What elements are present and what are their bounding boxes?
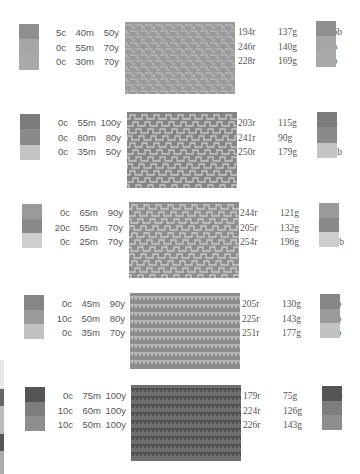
cmyk-m-value: 60m [73,404,101,419]
rgb-swatch-stack [319,203,339,247]
cmyk-m-value: 40m [66,26,94,41]
cmyk-m-value: 35m [72,326,100,341]
cmyk-y-value: 70y [94,41,119,56]
swatch-3 [320,323,340,338]
cmyk-y-value: 90y [100,297,125,312]
cmyk-y-value: 50y [96,145,121,160]
rgb-r-value: 241r [238,131,278,146]
cmyk-c-value: 5c [46,26,66,41]
cmyk-c-value: 0c [46,41,66,56]
swatch-3 [322,415,342,430]
rgb-r-value: 228r [238,54,278,69]
rgb-r-value: 251r [242,326,282,341]
rgb-r-value: 205r [242,297,282,312]
cmyk-c-value: 10c [53,404,73,419]
cmyk-m-value: 75m [73,389,101,404]
woven-pattern-swatch [125,22,235,94]
swatch-3 [20,145,40,160]
cmyk-y-value: 70y [98,235,123,250]
rgb-r-value: 254r [240,235,280,250]
cmyk-swatch-stack [25,387,45,431]
swatch-1 [20,114,40,129]
swatch-2 [322,401,342,416]
cmyk-swatch-stack [22,204,42,248]
swatch-3 [22,233,42,248]
swatch-2 [20,129,40,144]
cmyk-c-value: 10c [52,312,72,327]
cmyk-y-value: 100y [96,116,121,131]
cmyk-m-value: 80m [68,131,96,146]
rgb-r-value: 194r [238,25,278,40]
swatch-3 [317,143,337,158]
rgb-r-value: 224r [243,404,283,419]
rgb-r-value: 226r [243,418,283,433]
swatch-1 [319,203,339,218]
cmyk-swatch-stack [20,114,40,160]
rgb-r-value: 225r [242,312,282,327]
swatch-3 [24,324,44,339]
cmyk-swatch-stack [19,24,39,70]
cmyk-m-value: 55m [70,221,98,236]
swatch-2 [317,127,337,142]
cmyk-c-value: 20c [50,221,70,236]
cmyk-c-value: 0c [52,326,72,341]
swatch-3 [25,416,45,431]
cmyk-y-value: 90y [98,206,123,221]
woven-pattern-swatch [131,385,241,461]
rgb-r-value: 179r [243,389,283,404]
rgb-r-value: 244r [240,206,280,221]
cmyk-c-value: 0c [46,55,66,70]
swatch-1 [19,24,39,39]
cmyk-swatch-stack [24,295,44,339]
cmyk-y-value: 70y [100,326,125,341]
page-edge-strip [0,360,4,474]
woven-pattern-swatch [130,293,240,369]
cmyk-y-value: 100y [101,404,126,419]
cmyk-y-value: 100y [101,389,126,404]
cmyk-y-value: 70y [94,55,119,70]
cmyk-c-value: 10c [53,418,73,433]
swatch-3 [316,52,336,67]
swatch-2 [320,309,340,324]
cmyk-c-value: 0c [48,131,68,146]
swatch-2 [319,218,339,233]
rgb-r-value: 203r [238,116,278,131]
swatch-1 [316,21,336,36]
woven-pattern-swatch [127,112,237,188]
rgb-r-value: 205r [240,221,280,236]
cmyk-y-value: 70y [98,221,123,236]
cmyk-m-value: 50m [73,418,101,433]
rgb-swatch-stack [322,386,342,430]
cmyk-c-value: 0c [48,145,68,160]
cmyk-m-value: 65m [70,206,98,221]
swatch-2 [22,219,42,234]
cmyk-m-value: 25m [70,235,98,250]
rgb-r-value: 250r [238,145,278,160]
cmyk-c-value: 0c [50,235,70,250]
swatch-1 [320,294,340,309]
woven-pattern-swatch [129,202,239,278]
cmyk-c-value: 0c [50,206,70,221]
swatch-1 [22,204,42,219]
rgb-swatch-stack [320,294,340,338]
cmyk-m-value: 50m [72,312,100,327]
swatch-3 [19,55,39,70]
swatch-1 [24,295,44,310]
cmyk-y-value: 80y [100,312,125,327]
rgb-swatch-stack [316,21,336,67]
swatch-2 [25,402,45,417]
swatch-2 [19,39,39,54]
swatch-1 [322,386,342,401]
cmyk-c-value: 0c [48,116,68,131]
cmyk-c-value: 0c [52,297,72,312]
cmyk-y-value: 100y [101,418,126,433]
cmyk-m-value: 55m [66,41,94,56]
cmyk-y-value: 80y [96,131,121,146]
cmyk-m-value: 55m [68,116,96,131]
rgb-r-value: 246r [238,40,278,55]
rgb-swatch-stack [317,112,337,158]
cmyk-m-value: 45m [72,297,100,312]
cmyk-m-value: 30m [66,55,94,70]
cmyk-m-value: 35m [68,145,96,160]
swatch-3 [319,232,339,247]
